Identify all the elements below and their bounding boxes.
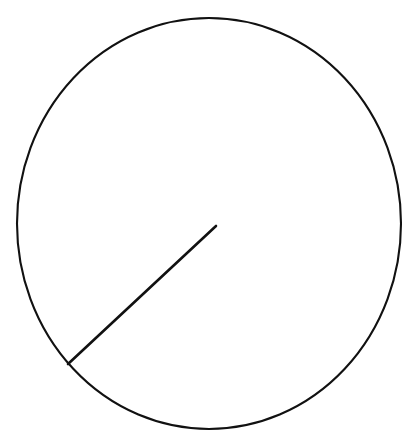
geometry-figure-svg (0, 0, 419, 442)
canvas-background (0, 0, 419, 442)
figure-canvas: Circle with radius segment A large hand-… (0, 0, 419, 442)
